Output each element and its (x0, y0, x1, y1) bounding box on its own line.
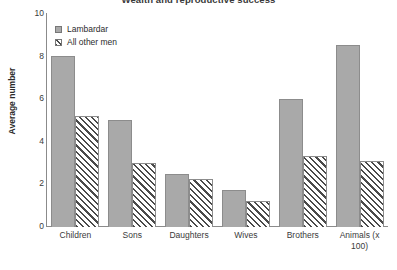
bar-group (274, 13, 331, 227)
legend-item-all-other-men: All other men (55, 37, 117, 47)
x-axis-label: Children (47, 230, 104, 252)
bar-1 (132, 163, 156, 227)
bar-0 (165, 174, 189, 228)
bar-0 (336, 45, 360, 227)
x-axis-label: Wives (217, 230, 274, 252)
bar-1 (246, 201, 270, 227)
x-axis-labels: ChildrenSonsDaughtersWivesBrothersAnimal… (47, 230, 388, 252)
bar-0 (108, 120, 132, 227)
bar-0 (51, 56, 75, 227)
bar-0 (279, 99, 303, 227)
legend-label-all-other-men: All other men (67, 37, 117, 47)
y-tick-0: 0 (4, 221, 44, 231)
y-tick-10: 10 (4, 8, 44, 18)
y-tick-2: 2 (4, 178, 44, 188)
legend-item-lambardar: Lambardar (55, 24, 117, 34)
legend-swatch-solid-icon (55, 26, 62, 33)
x-axis-label: Daughters (161, 230, 218, 252)
bar-1 (360, 161, 384, 227)
bar-group (217, 13, 274, 227)
bar-group (161, 13, 218, 227)
x-axis-label: Brothers (274, 230, 331, 252)
bar-group (331, 13, 388, 227)
bar-0 (222, 190, 246, 227)
x-axis-label: Animals (x 100) (331, 230, 388, 252)
legend-swatch-hatch-icon (55, 39, 62, 46)
legend-label-lambardar: Lambardar (67, 24, 108, 34)
x-axis-label: Sons (104, 230, 161, 252)
bar-1 (75, 116, 99, 227)
chart-legend: Lambardar All other men (55, 24, 117, 47)
y-axis-title: Average number (7, 41, 17, 161)
bar-1 (189, 179, 213, 227)
bar-1 (303, 156, 327, 227)
chart-title: Wealth and reproductive success (0, 0, 397, 5)
